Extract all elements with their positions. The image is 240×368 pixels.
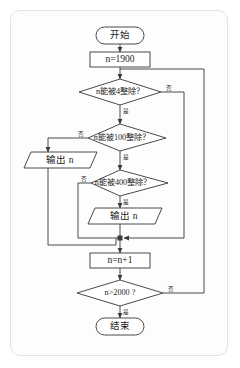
node-decision-div4[interactable]: n能被4整除？ <box>79 79 161 105</box>
branch-label-limit-no: 否 <box>168 286 174 293</box>
branch-label-limit-yes: 是 <box>123 309 129 316</box>
node-decision-div400[interactable]: n能被400整除？ <box>91 170 168 196</box>
start-label: 开始 <box>110 29 130 40</box>
branch-label-div400-yes: 是 <box>123 199 129 206</box>
init-label: n=1900 <box>105 54 134 64</box>
node-end[interactable]: 结束 <box>96 318 144 335</box>
node-init[interactable]: n=1900 <box>90 52 150 67</box>
div100-label: n能被100整除？ <box>94 132 150 142</box>
node-start[interactable]: 开始 <box>96 27 144 44</box>
increment-label: n=n+1 <box>108 255 133 265</box>
node-output-first[interactable]: 输出 n <box>24 152 97 168</box>
limit-label: n>2000 ? <box>105 288 136 297</box>
output-first-label: 输出 n <box>46 154 73 165</box>
branch-label-div4-no: 否 <box>166 85 172 92</box>
branch-label-div100-yes: 是 <box>123 154 129 161</box>
node-decision-limit[interactable]: n>2000 ? <box>77 280 163 306</box>
node-output-second[interactable]: 输出 n <box>88 208 162 224</box>
output-second-label: 输出 n <box>110 210 137 221</box>
branch-label-div4-yes: 是 <box>123 108 129 115</box>
branch-label-div100-no: 否 <box>78 131 84 138</box>
node-increment[interactable]: n=n+1 <box>90 253 150 268</box>
junction-node <box>118 236 123 241</box>
end-label: 结束 <box>110 320 130 331</box>
branch-label-div400-no: 否 <box>81 176 87 183</box>
edge-dec100-no-out1 <box>48 138 88 152</box>
div400-label: n能被400整除？ <box>95 177 151 187</box>
node-decision-div100[interactable]: n能被100整除？ <box>88 124 166 151</box>
flowchart-canvas: 开始 n=1900 n能被4整除？ n能被100整除？ 输出 n n能被400整… <box>0 0 240 368</box>
div4-label: n能被4整除？ <box>96 86 144 96</box>
